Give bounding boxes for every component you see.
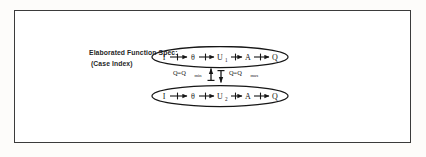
top-node-0-label: I (163, 53, 166, 62)
bottom-state-group: I θ U 2 A Q (152, 86, 288, 107)
top-state-group: I θ U 1 A Q (152, 47, 288, 68)
top-node-1-label: θ (191, 53, 195, 62)
transition-right-text: Q=Q (229, 69, 242, 76)
bottom-node-4-label: Q (272, 92, 278, 101)
transition-left-text: Q=Q (173, 69, 186, 76)
bottom-node-0-label: I (163, 92, 166, 101)
bottom-node-2-subscript: 2 (225, 96, 228, 102)
transition-left-subscript: min (195, 73, 203, 78)
top-node-2-label: U (217, 53, 223, 62)
scanned-page: Elaborated Function Spec: (Case Index) I… (0, 0, 426, 157)
top-node-3-label: A (245, 53, 251, 62)
bottom-node-1-label: θ (191, 92, 195, 101)
figure-caption-line-2: (Case Index) (91, 60, 133, 67)
transition-right-subscript: max (251, 73, 260, 78)
transition-label-right: Q=Q max (229, 69, 259, 78)
transition-label-left: Q=Q min (173, 69, 202, 78)
state-flow-diagram: I θ U 1 A Q (145, 46, 295, 120)
top-node-4-label: Q (272, 53, 278, 62)
transition-connector (208, 69, 225, 83)
top-node-2-subscript: 1 (225, 57, 228, 63)
bottom-node-3-label: A (245, 92, 251, 101)
bottom-node-2-label: U (217, 92, 223, 101)
